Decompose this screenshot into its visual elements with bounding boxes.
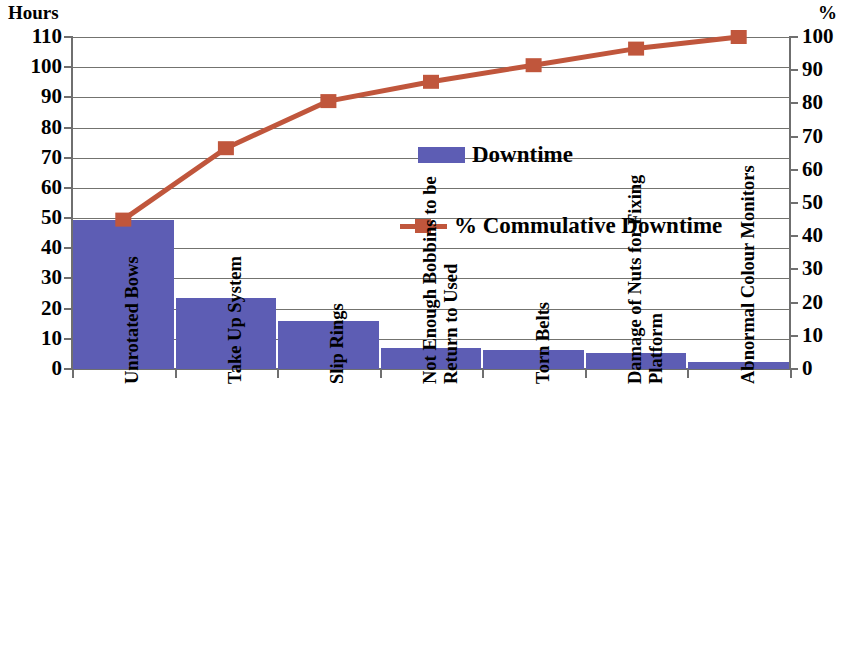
- right-tick-label: 30: [802, 258, 858, 279]
- right-tick-mark: [789, 102, 798, 104]
- category-tick-mark: [277, 369, 279, 378]
- right-tick-mark: [789, 69, 798, 71]
- right-tick-label: 50: [802, 192, 858, 213]
- left-tick-mark: [64, 217, 73, 219]
- category-tick-mark: [482, 369, 484, 378]
- left-tick-mark: [64, 308, 73, 310]
- right-tick-label: 0: [802, 358, 858, 379]
- right-tick-label: 100: [802, 26, 858, 47]
- right-axis-tick-labels: 0102030405060708090100: [802, 0, 858, 658]
- left-tick-label: 50: [4, 207, 62, 228]
- right-tick-mark: [789, 36, 798, 38]
- right-tick-mark: [789, 268, 798, 270]
- right-tick-label: 40: [802, 225, 858, 246]
- category-label-line: Take Up System: [226, 256, 245, 384]
- legend-label-cumulative: % Commulative Downtime: [454, 214, 722, 237]
- left-tick-label: 90: [4, 86, 62, 107]
- category-label-line: Abnormal Colour Monitors: [739, 165, 758, 384]
- category-tick-mark: [175, 369, 177, 378]
- category-tick-mark: [687, 369, 689, 378]
- category-tick-mark: [380, 369, 382, 378]
- legend-swatch-bar-icon: [418, 147, 465, 163]
- category-tick-mark: [72, 369, 74, 378]
- left-tick-label: 20: [4, 298, 62, 319]
- left-tick-label: 70: [4, 147, 62, 168]
- category-label-line: Return to Used: [442, 264, 461, 384]
- left-tick-label: 40: [4, 237, 62, 258]
- gridline: [72, 67, 790, 68]
- left-tick-label: 60: [4, 177, 62, 198]
- right-tick-mark: [789, 202, 798, 204]
- right-tick-mark: [789, 169, 798, 171]
- left-tick-label: 110: [4, 26, 62, 47]
- category-label-line: Slip Rings: [328, 303, 347, 384]
- left-tick-mark: [64, 277, 73, 279]
- right-tick-mark: [789, 335, 798, 337]
- right-tick-label: 90: [802, 59, 858, 80]
- category-label-line: Not Enough Bobbins to be: [421, 176, 440, 384]
- right-tick-label: 70: [802, 126, 858, 147]
- right-tick-label: 60: [802, 159, 858, 180]
- category-label-line: Torn Belts: [534, 302, 553, 384]
- category-label-line: Platform: [647, 313, 666, 384]
- category-tick-mark: [585, 369, 587, 378]
- right-tick-label: 10: [802, 325, 858, 346]
- legend-item-downtime: Downtime: [418, 143, 573, 166]
- left-tick-mark: [64, 36, 73, 38]
- left-tick-label: 0: [4, 358, 62, 379]
- left-axis-tick-labels: 0102030405060708090100110: [4, 0, 62, 658]
- legend-label-downtime: Downtime: [472, 143, 573, 166]
- left-tick-mark: [64, 66, 73, 68]
- left-tick-mark: [64, 127, 73, 129]
- left-tick-mark: [64, 338, 73, 340]
- gridline: [72, 37, 790, 38]
- right-tick-label: 20: [802, 292, 858, 313]
- left-tick-mark: [64, 187, 73, 189]
- left-tick-label: 30: [4, 267, 62, 288]
- right-tick-mark: [789, 302, 798, 304]
- pareto-chart: Hours % 0102030405060708090100110 010203…: [0, 0, 861, 658]
- legend-item-cumulative: % Commulative Downtime: [400, 214, 722, 237]
- category-tick-mark: [790, 369, 792, 378]
- category-label-line: Unrotated Bows: [123, 256, 142, 384]
- gridline: [72, 97, 790, 98]
- left-tick-label: 10: [4, 328, 62, 349]
- left-tick-label: 100: [4, 56, 62, 77]
- left-tick-mark: [64, 96, 73, 98]
- right-tick-label: 80: [802, 92, 858, 113]
- category-label-line: Damage of Nuts for Fixing: [626, 175, 645, 384]
- gridline: [72, 128, 790, 129]
- left-tick-mark: [64, 247, 73, 249]
- right-tick-mark: [789, 136, 798, 138]
- left-tick-mark: [64, 157, 73, 159]
- left-tick-label: 80: [4, 117, 62, 138]
- right-tick-mark: [789, 235, 798, 237]
